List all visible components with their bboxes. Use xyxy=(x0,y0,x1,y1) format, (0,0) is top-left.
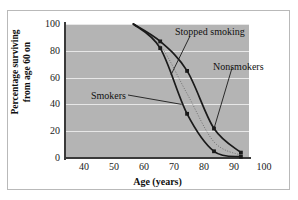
annotation-smokers: Smokers xyxy=(91,90,126,101)
series-overlay xyxy=(0,0,298,200)
annotation-stopped-smoking: Stopped smoking xyxy=(175,26,245,37)
series-line-nonsmokers xyxy=(133,24,241,153)
callout-lines-group xyxy=(128,36,232,129)
series-group xyxy=(133,24,243,159)
series-line-smokers xyxy=(133,24,241,157)
chart-figure: 100 80 60 40 20 0 40 50 60 70 80 90 100 … xyxy=(0,0,298,200)
data-point-marker xyxy=(158,40,162,44)
callout-leader-line xyxy=(214,68,232,129)
callout-leader-line xyxy=(128,95,182,104)
data-point-marker xyxy=(185,69,189,73)
data-point-marker xyxy=(185,112,189,116)
series-line-stopped-smoking xyxy=(133,24,241,155)
data-point-marker xyxy=(239,151,243,155)
annotation-nonsmokers: Nonsmokers xyxy=(213,61,264,72)
data-point-marker xyxy=(212,149,216,153)
data-point-marker xyxy=(239,155,243,159)
